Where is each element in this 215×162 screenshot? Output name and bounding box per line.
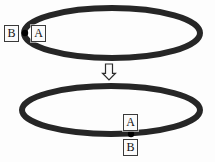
- upper-ellipse: [24, 8, 200, 58]
- upper-label-b: B: [4, 25, 19, 42]
- lower-ellipse: [22, 86, 200, 134]
- lower-label-b: B: [123, 139, 138, 156]
- lower-marked-point: [128, 131, 134, 137]
- upper-label-a: A: [31, 25, 46, 42]
- loop-diagram-figure: B A A B: [0, 0, 215, 162]
- lower-label-a: A: [123, 114, 138, 131]
- down-arrow-icon: [103, 64, 116, 80]
- upper-marked-point: [22, 30, 28, 36]
